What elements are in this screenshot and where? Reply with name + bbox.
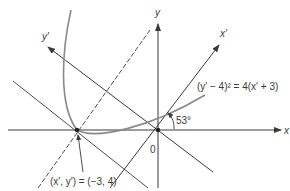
y-prime-axis bbox=[48, 47, 213, 172]
vertex-pointer-arrow bbox=[78, 135, 83, 172]
translated-x-line bbox=[38, 30, 150, 188]
x-prime-axis-label: x′ bbox=[219, 28, 228, 39]
origin-label: 0 bbox=[150, 144, 156, 155]
equation-label: (y′ − 4)² = 4(x′ + 3) bbox=[197, 81, 278, 92]
parabola-diagram: x y x′ y′ 0 53° (y′ − 4)² = 4(x′ + 3) (x… bbox=[0, 0, 290, 191]
angle-arc bbox=[168, 113, 174, 129]
vertex-label: (x′, y′) = (−3, 4) bbox=[50, 176, 117, 187]
y-prime-axis-label: y′ bbox=[41, 31, 50, 42]
origin-point bbox=[156, 128, 160, 132]
angle-label: 53° bbox=[176, 115, 191, 126]
translated-y-line bbox=[13, 81, 148, 188]
x-axis-label: x bbox=[283, 125, 290, 136]
vertex-point bbox=[75, 128, 79, 132]
y-axis-label: y bbox=[154, 7, 161, 18]
